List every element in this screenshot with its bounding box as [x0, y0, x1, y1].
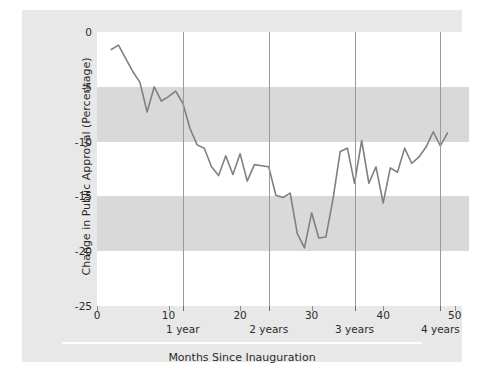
approval-change-line: [111, 45, 447, 248]
chart-card: Change in Public Approval (Percentage) 0…: [22, 10, 462, 362]
x-tick-label: 40: [376, 310, 389, 321]
year-annotation-label: 1 year: [166, 324, 199, 335]
year-marker-line: [440, 32, 441, 306]
year-marker-line: [183, 32, 184, 306]
year-annotation-label: 3 years: [335, 324, 374, 335]
x-tick-label: 50: [448, 310, 461, 321]
x-tick-label: 20: [233, 310, 246, 321]
x-tick-label: 30: [305, 310, 318, 321]
y-tick-label: -20: [52, 246, 92, 257]
x-axis-title: Months Since Inauguration: [22, 351, 462, 364]
year-marker-line: [269, 32, 270, 306]
divider-rule: [62, 342, 422, 344]
x-tick-label: 0: [94, 310, 101, 321]
year-annotation-label: 2 years: [249, 324, 288, 335]
x-tick-label: 10: [162, 310, 175, 321]
plot-area: [97, 32, 469, 306]
y-tick-label: -25: [52, 301, 92, 312]
year-annotation-labels: 1 year2 years3 years4 years: [97, 324, 469, 340]
y-tick-label: -5: [52, 82, 92, 93]
y-tick-label: -10: [52, 137, 92, 148]
y-axis-ticks: 0-5-10-15-20-25: [50, 32, 92, 306]
y-tick-label: -15: [52, 191, 92, 202]
year-annotation-label: 4 years: [421, 324, 460, 335]
data-line-svg: [97, 32, 469, 306]
y-tick-label: 0: [52, 27, 92, 38]
year-marker-line: [355, 32, 356, 306]
chart-figure: Change in Public Approval (Percentage) 0…: [0, 0, 480, 380]
